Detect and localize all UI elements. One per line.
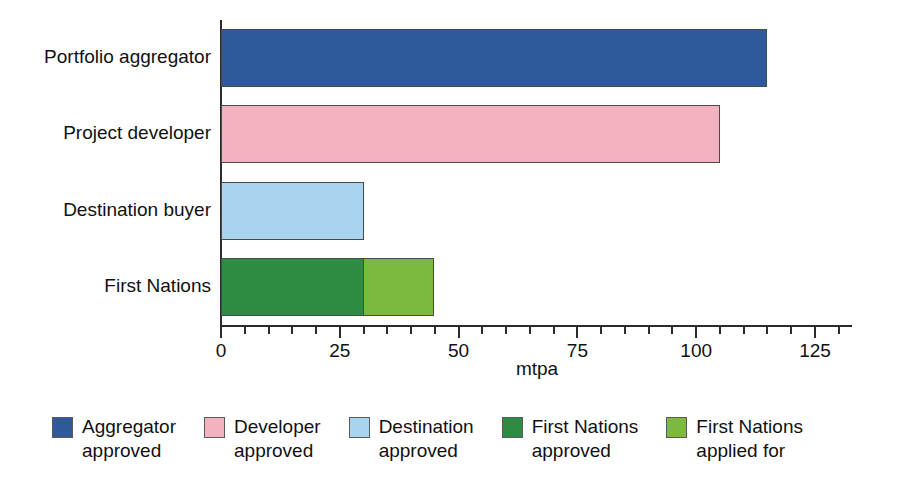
- legend-swatch-icon: [502, 417, 523, 438]
- bar-segment[interactable]: [221, 29, 767, 87]
- x-axis-minor-tick: [434, 327, 436, 334]
- x-axis-minor-tick: [838, 327, 840, 334]
- x-axis-major-tick: [576, 327, 578, 338]
- legend-item[interactable]: Developerapproved: [204, 415, 321, 463]
- x-axis-minor-tick: [315, 327, 317, 334]
- x-axis-minor-tick: [363, 327, 365, 334]
- plot-area: 0255075100125: [221, 20, 861, 325]
- x-axis-major-tick: [814, 327, 816, 338]
- x-axis-minor-tick: [766, 327, 768, 334]
- x-axis-minor-tick: [719, 327, 721, 334]
- bar-segment[interactable]: [221, 258, 364, 316]
- x-axis-title: mtpa: [221, 358, 853, 380]
- x-axis-minor-tick: [410, 327, 412, 334]
- legend-item[interactable]: Aggregatorapproved: [52, 415, 176, 463]
- y-axis-category-labels: Portfolio aggregatorProject developerDes…: [0, 20, 211, 325]
- x-axis-major-tick: [339, 327, 341, 338]
- bar-segment[interactable]: [363, 258, 434, 316]
- bar-row[interactable]: [221, 29, 767, 87]
- bar-segment[interactable]: [221, 105, 720, 163]
- x-axis-major-tick: [458, 327, 460, 338]
- bar-row[interactable]: [221, 182, 364, 240]
- category-label: Destination buyer: [1, 199, 211, 221]
- bar-row[interactable]: [221, 258, 434, 316]
- x-axis-minor-tick: [553, 327, 555, 334]
- bar-row[interactable]: [221, 105, 720, 163]
- legend-label: Developerapproved: [234, 415, 321, 463]
- x-axis-major-tick: [220, 327, 222, 338]
- legend-swatch-icon: [349, 417, 370, 438]
- category-label: Portfolio aggregator: [1, 46, 211, 68]
- x-axis-minor-tick: [529, 327, 531, 334]
- legend-swatch-icon: [52, 417, 73, 438]
- legend-swatch-icon: [666, 417, 687, 438]
- x-axis-minor-tick: [743, 327, 745, 334]
- x-axis-minor-tick: [671, 327, 673, 334]
- legend-label: First Nationsapplied for: [696, 415, 803, 463]
- bar-chart: Portfolio aggregatorProject developerDes…: [0, 0, 899, 492]
- x-axis-minor-tick: [505, 327, 507, 334]
- legend-item[interactable]: First Nationsapplied for: [666, 415, 803, 463]
- category-label: Project developer: [1, 122, 211, 144]
- legend-label: Destinationapproved: [379, 415, 474, 463]
- x-axis-minor-tick: [386, 327, 388, 334]
- bar-segment[interactable]: [221, 182, 364, 240]
- x-axis-minor-tick: [790, 327, 792, 334]
- x-axis-minor-tick: [244, 327, 246, 334]
- x-axis-minor-tick: [291, 327, 293, 334]
- legend-label: First Nationsapproved: [532, 415, 639, 463]
- legend-item[interactable]: First Nationsapproved: [502, 415, 639, 463]
- legend-label: Aggregatorapproved: [82, 415, 176, 463]
- x-axis-minor-tick: [268, 327, 270, 334]
- x-axis-minor-tick: [624, 327, 626, 334]
- x-axis-minor-tick: [600, 327, 602, 334]
- x-axis-major-tick: [695, 327, 697, 338]
- legend-swatch-icon: [204, 417, 225, 438]
- x-axis-minor-tick: [648, 327, 650, 334]
- x-axis-minor-tick: [481, 327, 483, 334]
- chart-legend: AggregatorapprovedDeveloperapprovedDesti…: [52, 415, 852, 463]
- legend-item[interactable]: Destinationapproved: [349, 415, 474, 463]
- category-label: First Nations: [1, 275, 211, 297]
